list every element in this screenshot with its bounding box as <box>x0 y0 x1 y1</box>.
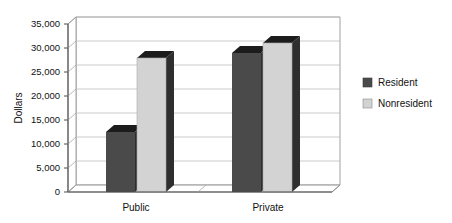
x-tick-label-private: Private <box>252 202 284 213</box>
bar-private-nonresident <box>263 36 300 192</box>
bar-front-face <box>232 53 261 192</box>
bar-chart-svg: 35,000 30,000 25,000 20,000 15,000 10,00… <box>0 0 452 223</box>
legend-label-resident: Resident <box>378 77 418 88</box>
legend-swatch-nonresident <box>363 99 372 108</box>
bar-front-face <box>106 132 135 192</box>
legend-swatch-resident <box>363 78 372 87</box>
bar-side-face <box>166 51 174 192</box>
bar-side-face <box>292 36 300 192</box>
y-tick-label-15000: 15,000 <box>31 114 60 125</box>
y-tick-label-35000: 35,000 <box>31 18 60 29</box>
bar-public-nonresident <box>137 51 174 192</box>
chart-figure: 35,000 30,000 25,000 20,000 15,000 10,00… <box>0 0 452 223</box>
y-tick-label-25000: 25,000 <box>31 66 60 77</box>
y-tick-label-10000: 10,000 <box>31 138 60 149</box>
y-axis-title: Dollars <box>13 92 24 123</box>
bar-front-face <box>263 43 292 192</box>
y-tick-label-20000: 20,000 <box>31 90 60 101</box>
y-tick-label-0: 0 <box>55 186 60 197</box>
legend-item-resident[interactable]: Resident <box>363 77 418 88</box>
x-tick-label-public: Public <box>122 202 149 213</box>
y-tick-label-5000: 5,000 <box>36 162 60 173</box>
legend-label-nonresident: Nonresident <box>378 98 432 109</box>
y-tick-label-30000: 30,000 <box>31 42 60 53</box>
plot-left-wall <box>68 17 76 192</box>
bar-front-face <box>137 58 166 192</box>
